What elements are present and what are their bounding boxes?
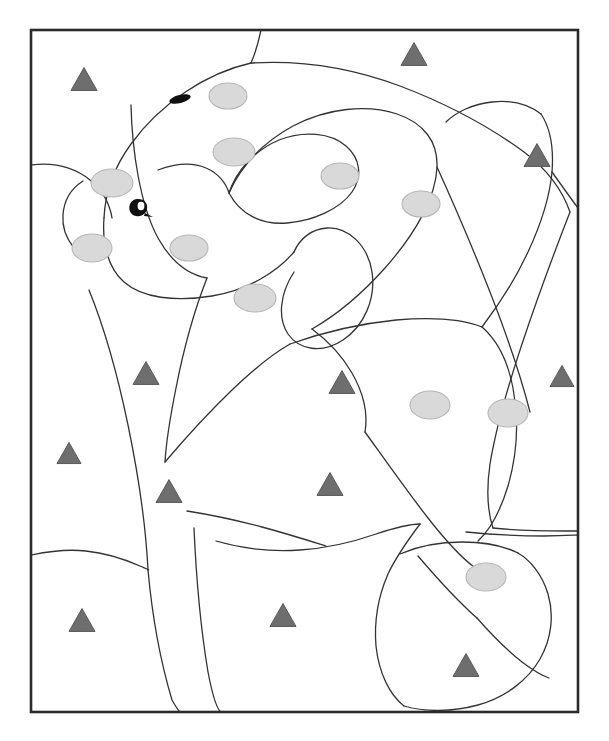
nucleus-ellipse-marker	[488, 399, 528, 427]
nucleus-ellipse-marker	[72, 234, 112, 262]
nucleus-ellipse-marker	[466, 563, 506, 591]
nucleus-ellipse-marker	[402, 191, 440, 217]
nucleus-ellipse-marker	[170, 235, 208, 261]
nucleus-ellipse-marker	[91, 169, 133, 197]
nucleus-ellipse-marker	[209, 83, 247, 109]
nucleus-ellipse-marker	[234, 284, 276, 312]
nucleus-ellipse-marker	[410, 391, 450, 419]
region-tracing-diagram	[0, 0, 609, 741]
figure-panel	[0, 0, 609, 741]
nucleus-ellipse-marker	[321, 163, 359, 189]
nucleus-ellipse-marker	[213, 138, 255, 166]
